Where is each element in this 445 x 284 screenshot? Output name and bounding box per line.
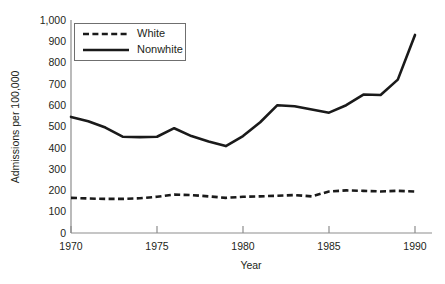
y-tick-label: 900 bbox=[48, 35, 66, 47]
y-tick-label: 700 bbox=[48, 78, 66, 90]
y-tick-label: 400 bbox=[48, 142, 66, 154]
x-tick-label: 1990 bbox=[403, 240, 427, 252]
y-tick-label: 100 bbox=[48, 205, 66, 217]
line-chart: 01002003004005006007008009001,000 197019… bbox=[0, 0, 445, 284]
y-axis-title: Admissions per 100,000 bbox=[9, 71, 21, 184]
y-tick-label: 1,000 bbox=[40, 14, 66, 26]
x-tick-label: 1970 bbox=[59, 240, 83, 252]
chart-legend: WhiteNonwhite bbox=[75, 24, 186, 61]
x-axis-title: Year bbox=[240, 259, 262, 271]
series-line-white bbox=[71, 190, 415, 199]
y-tick-label: 200 bbox=[48, 184, 66, 196]
legend-label-white: White bbox=[137, 27, 165, 39]
x-tick-label: 1985 bbox=[317, 240, 341, 252]
chart-container: 01002003004005006007008009001,000 197019… bbox=[0, 0, 445, 284]
y-tick-label: 600 bbox=[48, 99, 66, 111]
legend-label-nonwhite: Nonwhite bbox=[137, 43, 183, 55]
y-tick-label: 800 bbox=[48, 56, 66, 68]
x-tick-label: 1980 bbox=[231, 240, 255, 252]
x-axis-ticks: 19701975198019851990 bbox=[59, 226, 427, 252]
y-axis-ticks: 01002003004005006007008009001,000 bbox=[40, 14, 66, 239]
y-tick-label: 300 bbox=[48, 163, 66, 175]
y-tick-label: 0 bbox=[60, 227, 66, 239]
y-tick-label: 500 bbox=[48, 120, 66, 132]
x-tick-label: 1975 bbox=[145, 240, 169, 252]
